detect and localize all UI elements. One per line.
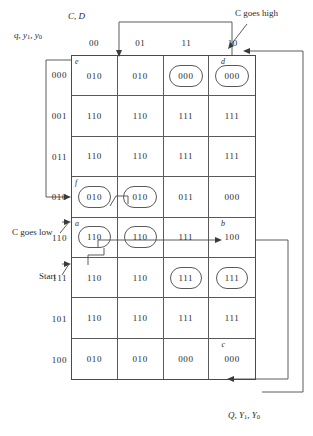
kmap-cell-value: 111	[225, 273, 240, 283]
row-header-111: 111	[29, 273, 67, 283]
row-header-000: 000	[29, 70, 67, 80]
kmap-cell-value: 011	[178, 192, 193, 202]
column-header-10: 10	[210, 38, 256, 48]
leader-c-goes-low	[60, 222, 69, 233]
kmap-cell-r111-c11[interactable]: 111	[164, 258, 210, 298]
kmap-cell-r110-c01[interactable]: 110	[118, 218, 164, 258]
kmap-cell-r100-c00[interactable]: 010	[72, 339, 118, 379]
kmap-cell-r001-c11[interactable]: 111	[164, 96, 210, 136]
kmap-cell-value: 110	[87, 151, 102, 161]
kmap-cell-value: 110	[133, 313, 148, 323]
kmap-cell-r010-c00[interactable]: f010	[72, 177, 118, 217]
wire-left-bus-outer	[46, 60, 71, 197]
state-tag-b: b	[221, 219, 225, 228]
kmap-cell-value: 010	[132, 71, 147, 81]
kmap-cell-r000-c01[interactable]: 010	[118, 56, 164, 96]
kmap-cell-r111-c00[interactable]: 110	[72, 258, 118, 298]
kmap-cell-r101-c11[interactable]: 111	[164, 298, 210, 338]
kmap-cell-r011-c00[interactable]: 110	[72, 137, 118, 177]
kmap-cell-value: 111	[179, 273, 194, 283]
column-header-01: 01	[117, 38, 163, 48]
state-tag-c: c	[221, 340, 225, 349]
row-header-001: 001	[29, 111, 67, 121]
kmap-cell-r110-c00[interactable]: a110	[72, 218, 118, 258]
kmap-cell-value: 000	[224, 354, 239, 364]
kmap-cell-value: 110	[133, 151, 148, 161]
kmap-cell-value: 010	[132, 354, 147, 364]
kmap-cell-r100-c01[interactable]: 010	[118, 339, 164, 379]
row-header-110: 110	[29, 233, 67, 243]
kmap-cell-r101-c10[interactable]: 111	[209, 298, 255, 338]
kmap-cell-r001-c01[interactable]: 110	[118, 96, 164, 136]
kmap-cell-r100-c11[interactable]: 000	[164, 339, 210, 379]
kmap-cell-value: 111	[225, 313, 240, 323]
kmap-cell-r101-c00[interactable]: 110	[72, 298, 118, 338]
kmap-cell-r000-c11[interactable]: 000	[164, 56, 210, 96]
row-header-101: 101	[29, 314, 67, 324]
kmap-cell-value: 110	[133, 111, 148, 121]
column-header-00: 00	[71, 38, 117, 48]
kmap-cell-r110-c10[interactable]: b100	[209, 218, 255, 258]
state-tag-d: d	[221, 57, 225, 66]
kmap-cell-r000-c10[interactable]: d000	[209, 56, 255, 96]
kmap-cell-r010-c10[interactable]: 000	[209, 177, 255, 217]
kmap-cell-value: 111	[225, 111, 240, 121]
kmap-cell-r001-c00[interactable]: 110	[72, 96, 118, 136]
kmap-cell-value: 000	[178, 71, 193, 81]
kmap-cell-value: 111	[179, 111, 194, 121]
row-variable-label: q, y1, y0	[14, 31, 42, 41]
kmap-cell-r111-c01[interactable]: 110	[118, 258, 164, 298]
kmap-cell-value: 111	[179, 232, 194, 242]
kmap-cell-value: 000	[224, 192, 239, 202]
kmap-cell-r011-c01[interactable]: 110	[118, 137, 164, 177]
kmap-cell-value: 110	[87, 313, 102, 323]
state-tag-a: a	[75, 219, 79, 228]
column-variable-label: C, D	[68, 12, 85, 21]
kmap-cell-value: 110	[87, 232, 102, 242]
kmap-cell-value: 010	[87, 354, 102, 364]
kmap-cell-r101-c01[interactable]: 110	[118, 298, 164, 338]
row-header-100: 100	[29, 355, 67, 365]
arrowhead-d-right	[243, 48, 250, 54]
kmap-cell-value: 110	[133, 232, 148, 242]
kmap-cell-r010-c01[interactable]: 010	[118, 177, 164, 217]
kmap-cell-value: 111	[225, 151, 240, 161]
arrowhead-row-010-lower	[64, 219, 71, 225]
kmap-cell-r110-c11[interactable]: 111	[164, 218, 210, 258]
annotation-c-goes-high: C goes high	[235, 9, 278, 18]
kmap-cell-value: 010	[87, 192, 102, 202]
kmap-figure: C, D q, y1, y0 C goes high C goes low St…	[0, 0, 313, 436]
kmap-cell-value: 111	[179, 151, 194, 161]
kmap-cell-r111-c10[interactable]: 111	[209, 258, 255, 298]
kmap-cell-value: 010	[87, 71, 102, 81]
karnaugh-map-grid: e010010000d000110110111111110110111111f0…	[71, 55, 256, 380]
arrowhead-start	[64, 261, 71, 267]
row-header-010: 010	[29, 192, 67, 202]
kmap-cell-r000-c00[interactable]: e010	[72, 56, 118, 96]
column-header-11: 11	[164, 38, 210, 48]
kmap-cell-r100-c10[interactable]: c000	[209, 339, 255, 379]
kmap-cell-value: 110	[87, 273, 102, 283]
kmap-cell-r001-c10[interactable]: 111	[209, 96, 255, 136]
kmap-cell-value: 100	[224, 232, 239, 242]
kmap-cell-r011-c11[interactable]: 111	[164, 137, 210, 177]
kmap-cell-value: 000	[178, 354, 193, 364]
kmap-cell-value: 111	[179, 313, 194, 323]
kmap-cell-value: 010	[132, 192, 147, 202]
kmap-cell-value: 000	[224, 71, 239, 81]
row-header-011: 011	[29, 152, 67, 162]
state-tag-e: e	[75, 57, 79, 66]
output-variable-label: Q, Y1, Y0	[228, 411, 260, 421]
kmap-cell-r010-c11[interactable]: 011	[164, 177, 210, 217]
kmap-cell-value: 110	[87, 111, 102, 121]
kmap-cell-r011-c10[interactable]: 111	[209, 137, 255, 177]
kmap-cell-value: 110	[133, 273, 148, 283]
state-tag-f: f	[75, 178, 77, 187]
